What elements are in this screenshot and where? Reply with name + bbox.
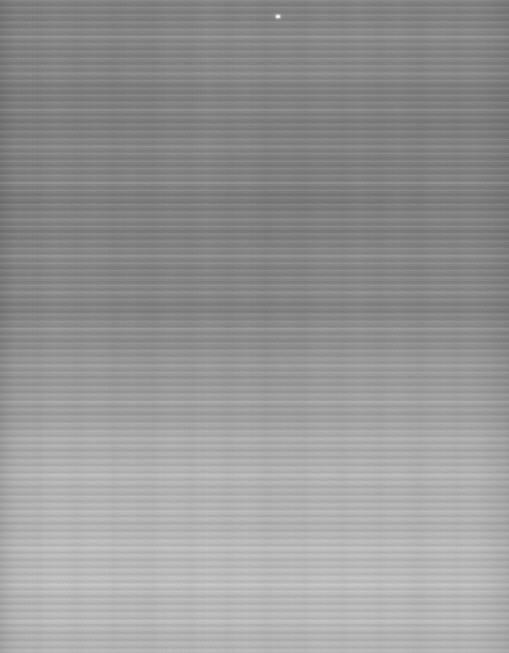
bright-speck-artifact (276, 15, 280, 18)
texture-image (0, 0, 509, 653)
base-gradient-layer (0, 0, 509, 653)
vertical-streak-layer (0, 0, 509, 653)
wide-band-layer (0, 0, 509, 653)
film-grain-layer (0, 0, 509, 653)
illumination-blotch-layer (0, 0, 509, 653)
edge-vignette-layer (0, 0, 509, 653)
fine-stripe-layer (0, 0, 509, 653)
slow-band-layer (0, 0, 509, 653)
